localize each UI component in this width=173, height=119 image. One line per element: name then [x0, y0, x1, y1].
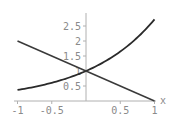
y-ticks: 0.511.522.5: [63, 21, 86, 92]
x-tick-label: 1: [151, 105, 157, 116]
x-ticks: -1-0.50.51: [11, 101, 157, 116]
x-tick-label: -1: [11, 105, 23, 116]
y-tick-label: 2.5: [63, 21, 81, 32]
y-tick-label: 0.5: [63, 81, 81, 92]
y-tick-label: 2: [75, 36, 81, 47]
x-tick-label: -0.5: [40, 105, 64, 116]
x-axis-label: x: [160, 95, 166, 106]
x-tick-label: 0.5: [111, 105, 129, 116]
y-tick-label: 1.5: [63, 51, 81, 62]
chart: -1-0.50.51 0.511.522.5 x: [0, 0, 173, 119]
